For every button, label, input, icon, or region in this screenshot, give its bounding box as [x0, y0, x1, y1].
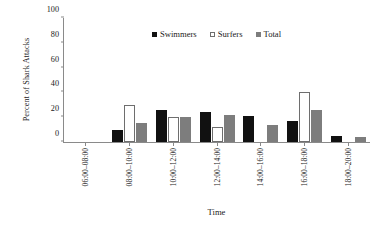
y-axis-tick-label: 60: [51, 54, 64, 63]
filled-black-square-icon: [152, 32, 157, 37]
filled-gray-square-icon: [256, 32, 261, 37]
bar-total: [311, 110, 322, 142]
bar-swimmers: [156, 110, 167, 142]
bar-surfers: [212, 127, 223, 142]
x-axis-label-cell: 14:00–16:00: [238, 143, 282, 205]
x-axis-tick-label: 06:00–08:00: [80, 148, 89, 186]
x-axis-tick-mark: [348, 143, 349, 146]
shark-attacks-bar-chart: Percent of Shark Attacks 020406080100 06…: [0, 0, 384, 230]
x-axis-label-cell: 08:00–10:00: [107, 143, 151, 205]
y-axis-tick-label: 20: [51, 104, 64, 113]
bar-swimmers: [331, 136, 342, 142]
bar-swimmers: [243, 116, 254, 142]
x-axis-title: Time: [63, 207, 370, 217]
legend-item-label: Total: [264, 29, 282, 39]
x-axis-label-cell: 18:00–20:00: [326, 143, 370, 205]
x-axis-tick-mark: [304, 143, 305, 146]
bar-total: [355, 137, 366, 142]
x-axis-tick-mark: [129, 143, 130, 146]
x-axis-tick-mark: [217, 143, 218, 146]
bar-surfers: [124, 105, 135, 142]
bar-swimmers: [200, 112, 211, 142]
bar-surfers: [168, 117, 179, 142]
x-axis-tick-mark: [173, 143, 174, 146]
y-axis-tick-label: 40: [51, 79, 64, 88]
bar-total: [267, 125, 278, 142]
bar-swimmers: [112, 130, 123, 142]
legend-item-label: Swimmers: [160, 29, 197, 39]
x-axis-tick-label: 10:00–12:00: [168, 148, 177, 186]
x-axis-tick-mark: [85, 143, 86, 146]
x-axis-label-cell: 10:00–12:00: [151, 143, 195, 205]
x-axis-tick-mark: [260, 143, 261, 146]
chart-legend: SwimmersSurfersTotal: [63, 29, 370, 39]
y-axis-title: Percent of Shark Attacks: [22, 5, 31, 155]
legend-item-surfers: Surfers: [210, 29, 243, 39]
y-axis-tick-label: 0: [55, 129, 64, 138]
bar-swimmers: [287, 121, 298, 142]
legend-item-swimmers: Swimmers: [152, 29, 197, 39]
x-axis-tick-label: 14:00–16:00: [256, 148, 265, 186]
x-axis-label-cell: 06:00–08:00: [63, 143, 107, 205]
x-axis-label-cell: 16:00–18:00: [282, 143, 326, 205]
bar-total: [180, 117, 191, 142]
x-axis-tick-label: 12:00–14:00: [212, 148, 221, 186]
legend-item-total: Total: [256, 29, 282, 39]
x-axis-tick-label: 18:00–20:00: [344, 148, 353, 186]
bar-total: [136, 123, 147, 142]
bar-surfers: [299, 92, 310, 142]
x-axis-labels: 06:00–08:0008:00–10:0010:00–12:0012:00–1…: [63, 143, 370, 205]
bar-total: [224, 115, 235, 142]
x-axis-tick-label: 08:00–10:00: [124, 148, 133, 186]
legend-item-label: Surfers: [218, 29, 243, 39]
x-axis-tick-label: 16:00–18:00: [300, 148, 309, 186]
y-axis-tick-label: 100: [47, 5, 64, 14]
x-axis-label-cell: 12:00–14:00: [195, 143, 239, 205]
open-white-square-icon: [210, 32, 215, 37]
